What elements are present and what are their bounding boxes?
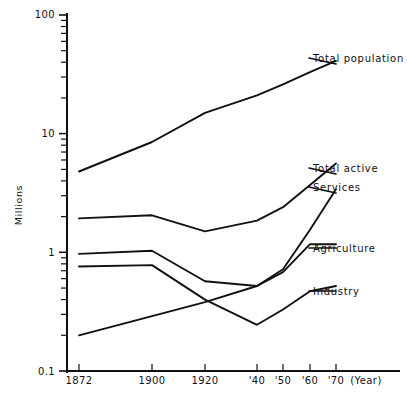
y-tick-label-100: 100: [35, 9, 55, 20]
log-line-chart: 100 10 1 0.1 Millions 1872 1900 1920 '40…: [0, 0, 407, 398]
chart-figure: 100 10 1 0.1 Millions 1872 1900 1920 '40…: [0, 0, 407, 398]
x-tick-label-1900: 1900: [138, 375, 165, 386]
y-axis-major-ticks: [59, 15, 67, 371]
x-tick-label-70: '70: [328, 375, 345, 386]
series-layer: [79, 61, 336, 335]
y-tick-label-1: 1: [48, 247, 55, 258]
series-line-total-population: [79, 61, 336, 172]
series-line-services: [79, 189, 336, 335]
series-label-industry: Industry: [313, 286, 360, 297]
x-tick-label-60: '60: [302, 375, 319, 386]
series-label-agriculture: Agriculture: [313, 243, 376, 254]
x-axis-unit-label: (Year): [350, 375, 381, 386]
series-label-services: Services: [313, 182, 361, 193]
y-tick-label-0.1: 0.1: [38, 366, 55, 377]
x-tick-label-1872: 1872: [65, 375, 92, 386]
series-line-industry: [79, 265, 336, 325]
y-axis-title: Millions: [13, 185, 24, 225]
series-label-total-population: Total population: [312, 53, 404, 64]
series-label-total-active: Total active: [312, 163, 378, 174]
series-line-total-active: [79, 164, 336, 232]
x-axis-ticks: [79, 364, 336, 371]
x-tick-label-1920: 1920: [191, 375, 218, 386]
y-tick-label-10: 10: [41, 128, 55, 139]
x-tick-label-50: '50: [275, 375, 292, 386]
x-tick-label-40: '40: [249, 375, 266, 386]
